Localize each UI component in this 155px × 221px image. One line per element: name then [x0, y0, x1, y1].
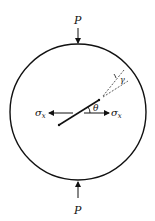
stress-label-right: σx: [111, 107, 122, 120]
theta-arc: [88, 107, 90, 113]
gamma-label: γ: [120, 75, 125, 84]
load-label-bottom: P: [73, 204, 82, 217]
theta-label: θ: [93, 103, 99, 113]
stress-label-left: σx: [35, 107, 46, 120]
gamma-arc: [114, 74, 116, 78]
crack-tip-lower: [58, 124, 60, 126]
load-label-top: P: [73, 14, 82, 27]
disc-circle: [10, 44, 146, 180]
crack-tip-upper: [98, 99, 100, 101]
diagram-canvas: P P σx σx θ γ: [0, 0, 155, 221]
